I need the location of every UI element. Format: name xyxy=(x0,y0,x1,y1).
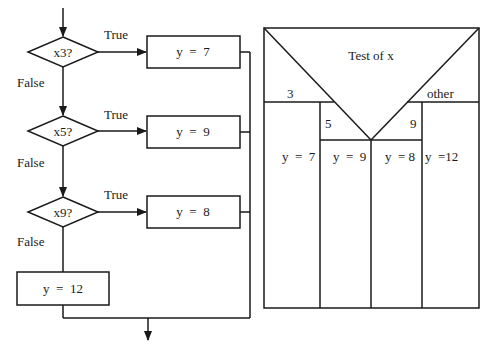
ns-diagonal-left xyxy=(264,28,371,140)
ns-case-label-5: 5 xyxy=(325,117,332,131)
ns-case-label-9: 9 xyxy=(410,117,417,131)
decision-label-x3: x3? xyxy=(54,46,73,60)
ns-case-label-other: other xyxy=(427,87,454,101)
ns-action-y7: y = 7 xyxy=(282,150,315,164)
diagram-canvas xyxy=(0,0,490,352)
false-label-1: False xyxy=(17,76,44,90)
ns-action-y8: y = 8 xyxy=(385,150,415,164)
true-label-1: True xyxy=(104,28,128,42)
ns-action-y9: y = 9 xyxy=(333,150,366,164)
action-text-y12: y = 12 xyxy=(43,282,83,296)
true-label-3: True xyxy=(104,188,128,202)
true-label-2: True xyxy=(104,108,128,122)
ns-diagonal-right xyxy=(371,28,479,140)
false-label-3: False xyxy=(17,235,44,249)
ns-case-label-3: 3 xyxy=(287,87,294,101)
decision-label-x5: x5? xyxy=(54,125,73,139)
action-text-y8: y = 8 xyxy=(176,205,209,219)
action-text-y9: y = 9 xyxy=(176,125,209,139)
ns-title: Test of x xyxy=(348,49,393,63)
decision-label-x9: x9? xyxy=(54,206,73,220)
false-label-2: False xyxy=(17,156,44,170)
action-text-y7: y = 7 xyxy=(176,45,209,59)
ns-action-y12: y =12 xyxy=(425,150,458,164)
